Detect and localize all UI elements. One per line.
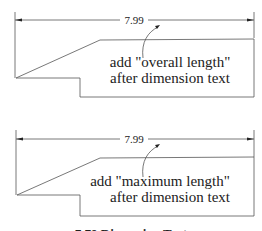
arrowhead-left-icon <box>15 19 22 22</box>
dimension-text-diagram: 7.99 add "overall length" after dimensio… <box>0 0 262 231</box>
note-line-2: after dimension text <box>110 70 231 86</box>
arrowhead-right-icon <box>247 138 254 141</box>
dimension-value: 7.99 <box>124 14 144 26</box>
dimension-value: 7.99 <box>124 133 144 145</box>
figure-caption: 7.79 Dimension Text <box>75 226 188 231</box>
arrowhead-right-icon <box>247 19 254 22</box>
arrowhead-left-icon <box>16 138 23 141</box>
figure-overall-length: 7.99 add "overall length" after dimensio… <box>15 12 254 97</box>
note-line-2: after dimension text <box>110 189 231 205</box>
note-line-1: add "maximum length" <box>90 173 230 189</box>
note-line-1: add "overall length" <box>110 54 231 70</box>
figure-maximum-length: 7.99 add "maximum length" after dimensio… <box>16 130 254 216</box>
